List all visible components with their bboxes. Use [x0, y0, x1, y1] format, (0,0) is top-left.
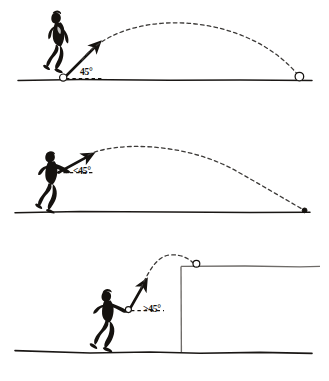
panel-1: 45°	[18, 11, 312, 82]
panel-2-ball-at-landing	[302, 208, 307, 213]
panel-3-trajectory	[141, 255, 195, 288]
panel-3-platform	[181, 266, 320, 352]
panel-1-ball-at-launch	[60, 74, 67, 81]
panel-1-thrower-figure	[43, 11, 68, 73]
panel-1-ball-at-landing	[295, 72, 304, 81]
panel-2-angle-label: <45°	[73, 166, 91, 176]
panel-2-thrower-figure	[35, 151, 70, 213]
panel-2-trajectory	[88, 146, 304, 210]
panel-1-trajectory	[82, 23, 299, 76]
panel-3-velocity-arrow	[130, 284, 145, 310]
panel-3-angle-label: >45°	[143, 304, 161, 314]
projectile-angle-figure: 45°	[0, 0, 329, 381]
panel-3-ground-line	[15, 351, 312, 354]
panel-3-platform-top	[181, 266, 320, 267]
panel-2: <45°	[15, 146, 310, 213]
panel-2-ground-line	[15, 211, 310, 212]
figure-canvas: 45°	[0, 0, 329, 381]
panel-3-ball-at-launch	[125, 307, 131, 313]
panel-1-angle-label: 45°	[80, 67, 93, 77]
panel-3-ball-at-landing	[193, 260, 200, 267]
panel-3: >45°	[15, 255, 320, 354]
panel-3-thrower-figure	[90, 289, 128, 352]
